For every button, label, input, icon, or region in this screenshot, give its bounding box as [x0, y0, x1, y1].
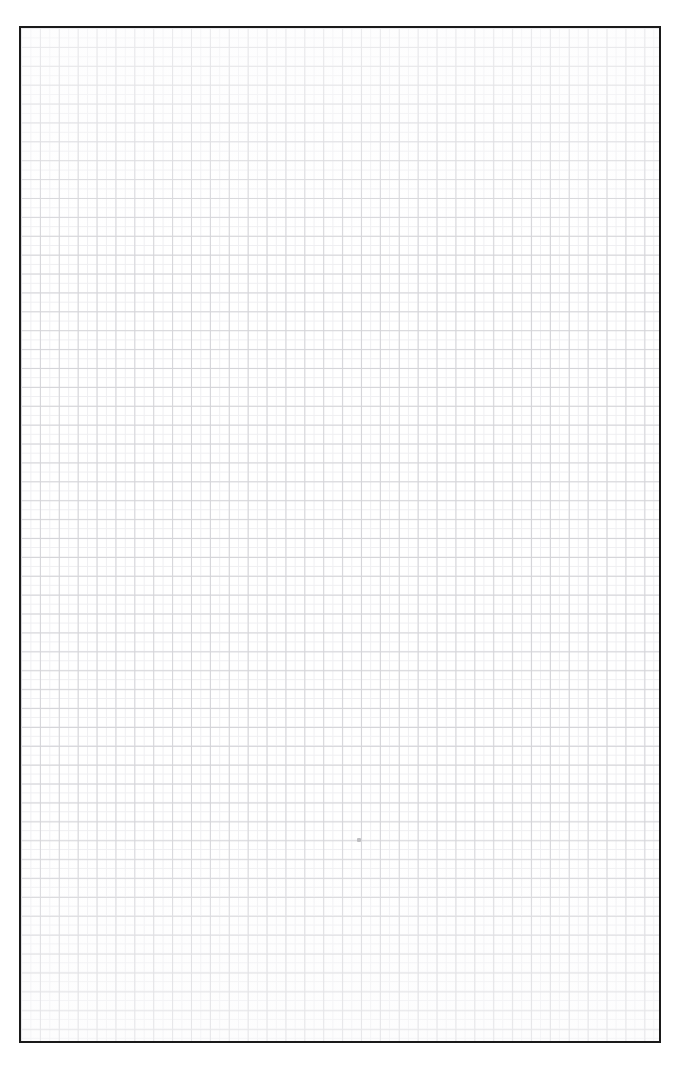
grid-ruling-surface — [21, 28, 659, 1041]
grid-paper-sheet[interactable] — [19, 26, 661, 1043]
page-canvas — [0, 0, 682, 1067]
stray-speck-mark — [357, 838, 361, 842]
